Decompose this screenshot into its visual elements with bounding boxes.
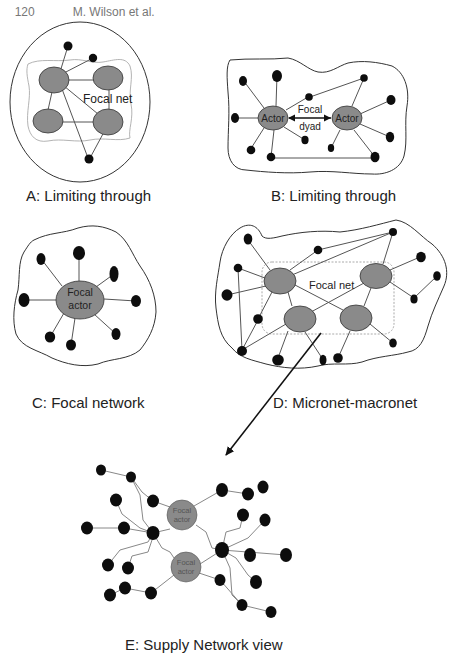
panel-b-node: [272, 70, 282, 82]
panel-d-node: [416, 252, 426, 262]
panel-a-focal-node: [93, 66, 123, 90]
panel-b-node: [387, 95, 396, 105]
panel-e-focal-actor-top-label-1: Focal: [173, 506, 192, 515]
panel-e-node: [216, 483, 228, 497]
panel-e-node: [126, 472, 136, 483]
caption-b: B: Limiting through: [271, 187, 396, 204]
panel-c: Focal actor: [14, 226, 156, 366]
panel-e-focal-actor-top-label-2: actor: [174, 515, 191, 524]
panel-c-node: [37, 253, 46, 265]
caption-a: A: Limiting through: [26, 187, 151, 204]
panel-d-edges: [227, 232, 437, 358]
panel-e-node: [215, 574, 226, 586]
panel-a-focal-net-label: Focal net: [83, 92, 133, 106]
panel-d-node: [272, 355, 284, 366]
panel-b-right-actor-label: Actor: [335, 113, 359, 124]
panel-e-node: [280, 548, 292, 562]
panel-b-node: [239, 76, 247, 86]
panel-b-node: [247, 146, 256, 155]
panel-b-node: [305, 93, 313, 101]
panel-e-node: [119, 582, 131, 595]
panel-c-node: [112, 328, 121, 340]
panel-c-node: [131, 295, 141, 307]
panel-d-node: [333, 353, 343, 363]
panel-e-hub-right: [215, 542, 229, 558]
panel-b-node: [231, 113, 239, 123]
panel-e-hub-left: [147, 526, 160, 540]
panel-d-focal-net-label: Focal net: [309, 279, 354, 291]
panel-b-boundary: [227, 58, 408, 174]
panel-e-node: [81, 522, 93, 535]
panel-c-node: [73, 246, 85, 260]
panel-b-dyad-label-1: Focal: [298, 104, 322, 115]
panel-e-node: [118, 522, 130, 535]
panel-e-focal-actor-bottom-label-2: actor: [178, 567, 195, 576]
panel-e-edges: [87, 470, 286, 612]
panel-c-node: [110, 266, 119, 282]
panel-d-node: [234, 264, 243, 273]
panel-b: Actor Actor Focal dyad: [227, 58, 408, 174]
panel-d-node: [314, 246, 323, 255]
panel-c-node: [66, 340, 76, 351]
panel-d: Focal net: [215, 220, 446, 368]
panel-a-node: [64, 42, 73, 51]
panel-e-node: [250, 575, 262, 589]
panel-b-node: [360, 74, 368, 82]
panel-c-node: [19, 293, 30, 307]
panel-c-focal-actor-label-2: actor: [68, 299, 92, 311]
panel-b-node: [371, 152, 380, 162]
panel-e-node: [147, 495, 159, 508]
panel-d-node: [433, 271, 441, 281]
panel-d-node: [244, 234, 253, 245]
panel-b-node: [301, 136, 308, 144]
caption-c: C: Focal network: [32, 394, 145, 411]
panel-d-focal-node: [264, 268, 296, 294]
panel-d-node: [222, 289, 233, 301]
panel-e-node: [266, 606, 277, 618]
panel-d-node: [410, 295, 417, 304]
panel-b-dyad-label-2: dyad: [299, 121, 321, 132]
panel-d-focal-node: [284, 306, 316, 332]
panel-e-node: [260, 514, 271, 527]
panel-e-focal-actor-bottom-label-1: Focal: [177, 558, 196, 567]
panel-b-node: [267, 153, 276, 162]
panel-e-node: [122, 562, 134, 575]
network-figure: Focal net Actor Actor Focal dyad: [0, 0, 462, 654]
panel-e-node: [237, 509, 249, 522]
panel-d-node: [389, 339, 397, 348]
panel-e-node: [102, 559, 114, 572]
panel-a-focal-node: [93, 109, 123, 135]
panel-b-node: [386, 132, 394, 142]
panel-a-node: [89, 54, 97, 62]
panel-e-node: [104, 589, 116, 602]
panel-d-focal-node: [340, 305, 372, 331]
panel-e-node: [258, 481, 269, 494]
panel-a-node: [85, 155, 94, 164]
panel-e: Focal actor Focal actor: [81, 465, 292, 619]
panel-e-node: [96, 465, 106, 476]
panel-a: Focal net: [10, 22, 150, 182]
panel-e-node: [110, 494, 122, 507]
panel-b-node: [328, 144, 334, 152]
panel-c-node: [45, 332, 55, 343]
panel-a-focal-node: [39, 67, 69, 93]
panel-c-focal-actor-label-1: Focal: [67, 286, 93, 298]
panel-d-node: [253, 314, 263, 324]
panel-b-left-actor-label: Actor: [261, 113, 285, 124]
panel-d-node: [389, 228, 397, 236]
panel-d-focal-node: [360, 264, 392, 289]
panel-d-node: [320, 355, 327, 365]
panel-e-node: [145, 587, 157, 600]
caption-e: E: Supply Network view: [125, 636, 283, 653]
panel-e-node: [244, 548, 256, 562]
caption-d: D: Micronet-macronet: [273, 394, 417, 411]
panel-d-node: [237, 346, 247, 356]
panel-e-node: [237, 599, 248, 611]
panel-a-focal-node: [33, 109, 63, 133]
panel-e-node: [242, 488, 254, 501]
panel-e-nodes: [81, 465, 292, 619]
